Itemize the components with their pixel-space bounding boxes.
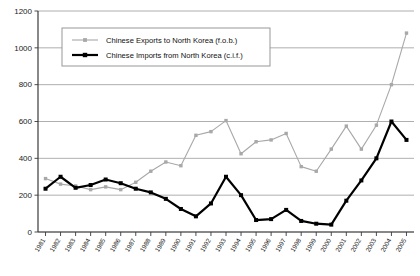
- data-point-marker: [330, 147, 333, 150]
- legend-marker-swatch: [83, 38, 87, 42]
- data-point-marker: [254, 218, 258, 222]
- data-point-marker: [149, 190, 153, 194]
- data-point-marker: [119, 188, 122, 191]
- data-point-marker: [89, 188, 92, 191]
- data-point-marker: [224, 119, 227, 122]
- data-point-marker: [74, 186, 78, 190]
- data-point-marker: [224, 175, 228, 179]
- data-point-marker: [375, 123, 378, 126]
- x-tick-label: 1990: [168, 237, 181, 253]
- x-tick-label: 1992: [199, 237, 212, 253]
- data-point-marker: [209, 130, 212, 133]
- x-tick-label: 1991: [183, 237, 196, 253]
- data-point-marker: [404, 138, 408, 142]
- data-point-marker: [314, 222, 318, 226]
- legend-label: Chinese Exports to North Korea (f.o.b.): [106, 36, 238, 45]
- y-tick-label: 600: [19, 117, 33, 126]
- data-point-marker: [179, 164, 182, 167]
- data-point-marker: [344, 199, 348, 203]
- x-tick-label: 1997: [274, 237, 287, 253]
- x-tick-label: 1993: [214, 237, 227, 253]
- x-tick-label: 1998: [289, 237, 302, 253]
- x-tick-label: 1986: [108, 237, 121, 253]
- x-tick-label: 1983: [63, 237, 76, 253]
- data-point-marker: [164, 160, 167, 163]
- data-point-marker: [284, 132, 287, 135]
- data-point-marker: [104, 178, 108, 182]
- legend-marker-swatch: [83, 53, 87, 57]
- data-point-marker: [89, 183, 93, 187]
- data-point-marker: [194, 214, 198, 218]
- data-point-marker: [59, 182, 62, 185]
- x-tick-label: 2005: [394, 237, 407, 253]
- data-point-marker: [359, 178, 363, 182]
- legend-box: [62, 28, 270, 66]
- x-tick-label: 1989: [153, 237, 166, 253]
- x-tick-label: 2004: [379, 237, 392, 253]
- x-tick-label: 2002: [349, 237, 362, 253]
- data-point-marker: [209, 201, 213, 205]
- chart-container: 0200400600800100012001981198219831984198…: [0, 0, 420, 276]
- x-tick-label: 1988: [138, 237, 151, 253]
- data-point-marker: [300, 165, 303, 168]
- x-tick-label: 2000: [319, 237, 332, 253]
- data-point-marker: [119, 181, 123, 185]
- data-point-marker: [390, 83, 393, 86]
- data-point-marker: [104, 185, 107, 188]
- y-tick-label: 800: [19, 80, 33, 89]
- x-tick-label: 1994: [229, 237, 242, 253]
- data-point-marker: [254, 140, 257, 143]
- y-tick-label: 1000: [14, 44, 32, 53]
- x-tick-label: 1999: [304, 237, 317, 253]
- y-tick-label: 1200: [14, 7, 32, 16]
- data-point-marker: [345, 124, 348, 127]
- y-tick-label: 0: [28, 228, 33, 237]
- x-tick-label: 1981: [33, 237, 46, 253]
- y-tick-label: 400: [19, 154, 33, 163]
- line-chart: 0200400600800100012001981198219831984198…: [0, 0, 420, 276]
- data-point-marker: [299, 219, 303, 223]
- data-point-marker: [194, 134, 197, 137]
- x-tick-label: 1985: [93, 237, 106, 253]
- data-point-marker: [179, 207, 183, 211]
- data-point-marker: [44, 177, 47, 180]
- legend-label: Chinese Imports from North Korea (c.i.f.…: [106, 51, 243, 60]
- data-point-marker: [164, 197, 168, 201]
- data-point-marker: [239, 193, 243, 197]
- data-point-marker: [59, 175, 63, 179]
- data-point-marker: [405, 31, 408, 34]
- data-point-marker: [269, 138, 272, 141]
- series-line-2: [46, 122, 407, 225]
- data-point-marker: [284, 208, 288, 212]
- data-point-marker: [389, 120, 393, 124]
- x-tick-label: 2001: [334, 237, 347, 253]
- data-point-marker: [134, 187, 138, 191]
- data-point-marker: [374, 156, 378, 160]
- x-tick-label: 1987: [123, 237, 136, 253]
- data-point-marker: [239, 152, 242, 155]
- x-tick-label: 2003: [364, 237, 377, 253]
- y-tick-label: 200: [19, 191, 33, 200]
- data-point-marker: [360, 147, 363, 150]
- x-tick-label: 1995: [244, 237, 257, 253]
- data-point-marker: [329, 223, 333, 227]
- data-point-marker: [149, 170, 152, 173]
- data-point-marker: [315, 170, 318, 173]
- data-point-marker: [44, 187, 48, 191]
- x-tick-label: 1984: [78, 237, 91, 253]
- data-point-marker: [269, 217, 273, 221]
- x-tick-label: 1996: [259, 237, 272, 253]
- x-tick-label: 1982: [48, 237, 61, 253]
- data-point-marker: [134, 181, 137, 184]
